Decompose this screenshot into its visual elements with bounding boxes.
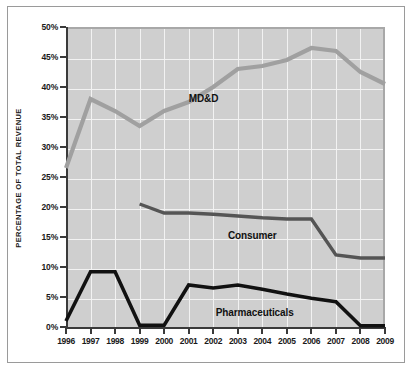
x-tick-label: 1996: [57, 336, 75, 346]
x-tick-label: 2005: [278, 336, 296, 346]
series-line-pharmaceuticals: [66, 272, 385, 326]
series-label-pharmaceuticals: Pharmaceuticals: [216, 307, 294, 318]
y-tick-label: 45%: [42, 52, 58, 62]
series-lines: [66, 27, 385, 327]
y-tick-mark: [60, 86, 66, 88]
x-tick-mark: [286, 329, 288, 334]
x-tick-label: 2002: [204, 336, 222, 346]
series-label-consumer: Consumer: [228, 230, 277, 241]
y-tick-label: 20%: [42, 202, 58, 212]
y-tick-mark: [60, 206, 66, 208]
x-tick-mark: [114, 329, 116, 334]
chart-figure: PERCENTAGE OF TOTAL REVENUE 0%5%10%15%20…: [0, 0, 413, 370]
y-tick-label: 50%: [42, 22, 58, 32]
x-tick-label: 2001: [180, 336, 198, 346]
x-tick-label: 2004: [253, 336, 271, 346]
x-tick-label: 2009: [376, 336, 394, 346]
series-label-md-d: MD&D: [189, 93, 219, 104]
x-tick-label: 1998: [106, 336, 124, 346]
y-tick-mark: [60, 146, 66, 148]
x-tick-mark: [237, 329, 239, 334]
x-tick-mark: [359, 329, 361, 334]
x-tick-label: 1999: [131, 336, 149, 346]
x-tick-mark: [384, 329, 386, 334]
x-tick-mark: [261, 329, 263, 334]
x-tick-label: 2008: [352, 336, 370, 346]
x-tick-label: 2000: [155, 336, 173, 346]
x-tick-mark: [212, 329, 214, 334]
series-line-md-d: [66, 48, 385, 168]
y-tick-label: 25%: [42, 172, 58, 182]
y-tick-mark: [60, 296, 66, 298]
x-tick-label: 2006: [303, 336, 321, 346]
x-tick-mark: [139, 329, 141, 334]
x-tick-mark: [335, 329, 337, 334]
x-tick-label: 2003: [229, 336, 247, 346]
y-tick-label: 10%: [42, 262, 58, 272]
y-tick-label: 15%: [42, 232, 58, 242]
y-tick-label: 0%: [46, 322, 58, 332]
y-tick-mark: [60, 26, 66, 28]
x-tick-mark: [90, 329, 92, 334]
y-tick-mark: [60, 326, 66, 328]
y-tick-mark: [60, 116, 66, 118]
y-tick-mark: [60, 266, 66, 268]
y-axis-tick-labels: 0%5%10%15%20%25%30%35%40%45%50%: [0, 0, 58, 370]
y-tick-label: 35%: [42, 112, 58, 122]
x-tick-mark: [310, 329, 312, 334]
y-tick-label: 30%: [42, 142, 58, 152]
x-tick-mark: [163, 329, 165, 334]
y-tick-label: 5%: [46, 292, 58, 302]
x-tick-label: 1997: [82, 336, 100, 346]
y-tick-mark: [60, 236, 66, 238]
x-tick-mark: [65, 329, 67, 334]
x-tick-label: 2007: [327, 336, 345, 346]
y-tick-label: 40%: [42, 82, 58, 92]
y-tick-mark: [60, 176, 66, 178]
x-tick-mark: [188, 329, 190, 334]
y-tick-mark: [60, 56, 66, 58]
